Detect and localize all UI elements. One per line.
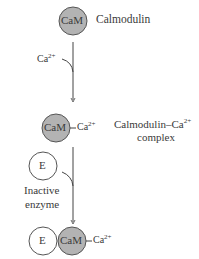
complex-bound-calcium: Ca2+	[77, 121, 96, 132]
enzyme-join-curve	[62, 172, 73, 186]
final-bound-calcium: Ca2+	[93, 234, 112, 245]
calcium-join-curve	[62, 59, 73, 72]
inactive-enzyme-label-line1: Inactive	[24, 184, 59, 196]
inactive-enzyme-symbol: E	[39, 159, 46, 171]
calmodulin-symbol: CaM	[61, 14, 83, 26]
calcium-input-label: Ca2+	[37, 53, 56, 64]
final-cam-symbol: CaM	[60, 234, 82, 246]
calmodulin-label: Calmodulin	[96, 13, 150, 25]
complex-label-line1: Calmodulin–Ca2+	[114, 118, 191, 130]
final-enzyme-symbol: E	[39, 234, 46, 246]
complex-label-line2: complex	[137, 131, 175, 143]
inactive-enzyme-label-line2: enzyme	[25, 198, 59, 210]
complex-cam-symbol: CaM	[44, 121, 66, 133]
